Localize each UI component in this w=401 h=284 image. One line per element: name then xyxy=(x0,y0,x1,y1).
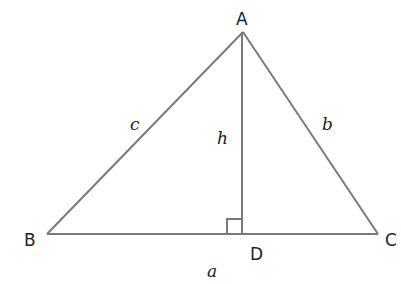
side-c-line xyxy=(47,32,243,234)
triangle-diagram: A B C D c b h a xyxy=(0,0,401,284)
vertex-label-c: C xyxy=(385,230,397,250)
side-label-c: c xyxy=(130,114,140,134)
side-b-line xyxy=(243,32,378,234)
side-label-a: a xyxy=(207,261,217,281)
vertex-label-b: B xyxy=(24,230,36,250)
vertex-label-d: D xyxy=(250,244,263,264)
right-angle-marker xyxy=(227,219,242,234)
vertex-label-a: A xyxy=(236,9,248,29)
side-label-b: b xyxy=(322,114,333,134)
altitude-label-h: h xyxy=(217,128,228,148)
triangle-svg: A B C D c b h a xyxy=(0,0,401,284)
